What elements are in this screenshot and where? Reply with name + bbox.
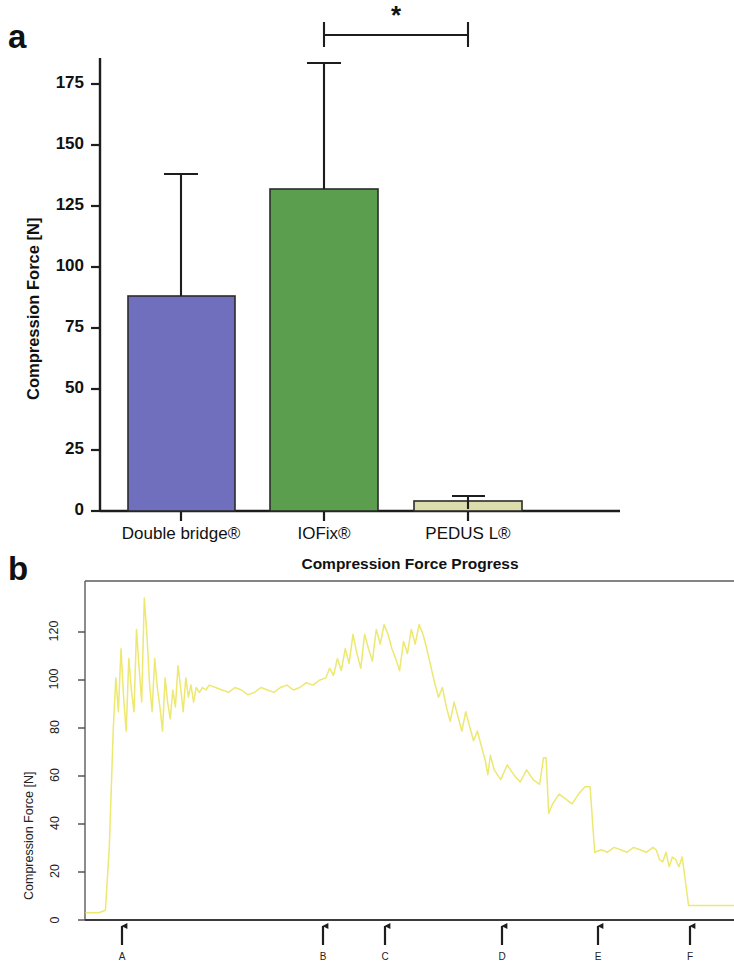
panel-a-ytick-100: 100 xyxy=(28,256,84,276)
panel-a-xlabel-double-bridge: Double bridge® xyxy=(122,524,240,544)
panel-a-plot xyxy=(0,0,734,545)
panel-b-y-ticks xyxy=(78,632,85,920)
panel-b-arrow-label-e: E xyxy=(595,951,602,962)
panel-a-x-ticks xyxy=(181,511,468,521)
panel-b-plot xyxy=(0,545,734,968)
errorbar-double-bridge xyxy=(164,174,198,296)
panel-b-event-arrows xyxy=(122,926,690,945)
panel-b-ytick-80: 80 xyxy=(48,720,62,734)
bar-double-bridge xyxy=(128,296,235,511)
panel-b-ytick-40: 40 xyxy=(48,816,62,830)
panel-a-ytick-175: 175 xyxy=(28,73,84,93)
panel-a-ytick-25: 25 xyxy=(28,439,84,459)
panel-a-xlabel-iofix: IOFix® xyxy=(297,524,350,544)
panel-b-ytick-120: 120 xyxy=(47,621,61,642)
panel-b-arrow-label-b: B xyxy=(320,951,327,962)
panel-a-ytick-50: 50 xyxy=(28,378,84,398)
panel-a-ytick-125: 125 xyxy=(28,195,84,215)
panel-b-ytick-100: 100 xyxy=(47,669,61,690)
panel-b-arrow-label-d: D xyxy=(498,951,505,962)
panel-a-xlabel-pedus-l: PEDUS L® xyxy=(425,524,510,544)
panel-a-ytick-0: 0 xyxy=(28,500,84,520)
panel-b-ytick-60: 60 xyxy=(48,768,62,782)
panel-b-arrow-label-c: C xyxy=(381,951,388,962)
panel-a-ytick-75: 75 xyxy=(28,317,84,337)
panel-a-y-ticks xyxy=(91,84,100,511)
compression-force-trace xyxy=(86,598,734,913)
figure-root: a xyxy=(0,0,734,968)
panel-a-y-axis-label: Compression Force [N] xyxy=(24,218,43,400)
panel-b: b Compression Force Progress Compression… xyxy=(0,545,734,968)
panel-a: a xyxy=(0,0,734,545)
errorbar-iofix xyxy=(307,63,341,189)
panel-a-ytick-150: 150 xyxy=(28,134,84,154)
panel-b-ytick-0: 0 xyxy=(48,917,62,924)
panel-b-ytick-20: 20 xyxy=(48,864,62,878)
bar-iofix xyxy=(270,189,378,511)
panel-b-arrow-label-f: F xyxy=(687,951,693,962)
panel-b-arrow-label-a: A xyxy=(119,951,126,962)
significance-star: * xyxy=(391,2,401,28)
